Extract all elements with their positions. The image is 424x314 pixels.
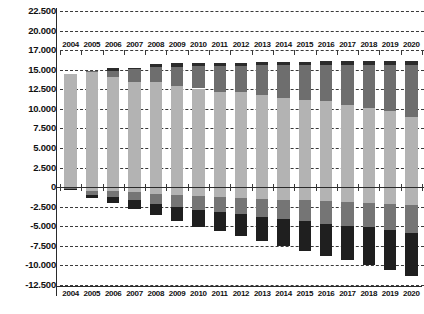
bar-segment[interactable] <box>214 66 226 92</box>
bar-segment[interactable] <box>235 92 247 187</box>
bar-segment[interactable] <box>405 117 417 187</box>
bar-segment[interactable] <box>277 200 289 219</box>
bar-segment[interactable] <box>320 65 332 101</box>
y-axis-tick-label: 12.500 <box>4 84 56 94</box>
bar-segment[interactable] <box>341 105 353 187</box>
bar-segment[interactable] <box>384 61 396 65</box>
bar-segment[interactable] <box>192 196 204 210</box>
bar-segment[interactable] <box>192 66 204 88</box>
x-axis-tick-mark <box>422 50 423 55</box>
bar-segment[interactable] <box>405 61 417 65</box>
bar-segment[interactable] <box>86 195 98 199</box>
bar-segment[interactable] <box>299 200 311 221</box>
bar-segment[interactable] <box>363 203 375 228</box>
x-axis-tick-label: 2009 <box>166 39 187 51</box>
x-axis-tick-mark <box>294 50 295 55</box>
bar-segment[interactable] <box>384 204 396 231</box>
x-axis-tick-label: 2008 <box>145 39 166 51</box>
bar-segment[interactable] <box>277 98 289 188</box>
x-axis-tick-label: 2006 <box>103 39 124 51</box>
bar-segment[interactable] <box>235 63 247 66</box>
bar-segment[interactable] <box>341 202 353 225</box>
bar-segment[interactable] <box>214 197 226 212</box>
bar-segment[interactable] <box>192 89 204 188</box>
bar-segment[interactable] <box>128 192 140 200</box>
zero-line-ticks <box>60 184 424 191</box>
bar-segment[interactable] <box>363 65 375 108</box>
bar-segment[interactable] <box>171 86 183 187</box>
bar-segment[interactable] <box>256 95 268 187</box>
bar-segment[interactable] <box>235 198 247 214</box>
bar-segment[interactable] <box>171 195 183 207</box>
x-axis-tick-label: 2007 <box>124 288 145 300</box>
bar-segment[interactable] <box>320 101 332 187</box>
bar-segment[interactable] <box>128 68 140 70</box>
bar-segment[interactable] <box>150 204 162 215</box>
bar-segment[interactable] <box>299 100 311 187</box>
x-axis-tick-label: 2019 <box>379 288 400 300</box>
x-axis-tick-mark <box>337 184 338 191</box>
bar-segment[interactable] <box>192 63 204 66</box>
bar-segment[interactable] <box>150 194 162 204</box>
bar-segment[interactable] <box>150 64 162 67</box>
bar-segment[interactable] <box>107 68 119 71</box>
bar-segment[interactable] <box>341 65 353 105</box>
bar-segment[interactable] <box>384 230 396 270</box>
bar-segment[interactable] <box>363 61 375 65</box>
bar-segment[interactable] <box>299 62 311 66</box>
bar-segment[interactable] <box>405 233 417 276</box>
bar-segment[interactable] <box>128 82 140 187</box>
bar-segment[interactable] <box>299 221 311 251</box>
bar-segment[interactable] <box>299 65 311 99</box>
bar-segment[interactable] <box>363 108 375 187</box>
bar-segment[interactable] <box>405 205 417 233</box>
x-axis-tick-mark <box>358 184 359 191</box>
bar-segment[interactable] <box>192 210 204 227</box>
x-axis-tick-label: 2016 <box>316 39 337 51</box>
bar-segment[interactable] <box>320 201 332 223</box>
x-axis-tick-label: 2004 <box>60 39 81 51</box>
x-axis-tick-mark <box>103 50 104 55</box>
bar-segment[interactable] <box>150 67 162 82</box>
bar-segment[interactable] <box>256 199 268 217</box>
bar-segment[interactable] <box>405 65 417 117</box>
bar-segment[interactable] <box>150 82 162 187</box>
x-axis-tick-mark <box>252 184 253 191</box>
bar-segment[interactable] <box>235 66 247 92</box>
x-axis-tick-label: 2008 <box>145 288 166 300</box>
bar-segment[interactable] <box>384 111 396 187</box>
bar-segment[interactable] <box>171 67 183 87</box>
bar-segment[interactable] <box>86 72 98 187</box>
bar-segment[interactable] <box>277 65 289 97</box>
bar-segment[interactable] <box>256 217 268 241</box>
bar-segment[interactable] <box>320 61 332 65</box>
bar-segment[interactable] <box>320 224 332 256</box>
bar-segment[interactable] <box>64 74 76 187</box>
bar-segment[interactable] <box>107 197 119 203</box>
x-axis-tick-mark <box>358 50 359 55</box>
bar-segment[interactable] <box>341 226 353 261</box>
bar-segment[interactable] <box>341 61 353 65</box>
bar-segment[interactable] <box>107 71 119 77</box>
bar-segment[interactable] <box>277 62 289 66</box>
x-axis-tick-mark <box>401 184 402 191</box>
bar-segment[interactable] <box>128 200 140 208</box>
bar-segment[interactable] <box>86 71 98 73</box>
bar-segment[interactable] <box>214 63 226 66</box>
bar-segment[interactable] <box>128 69 140 82</box>
x-axis-tick-label: 2017 <box>337 39 358 51</box>
bar-segment[interactable] <box>256 65 268 95</box>
bar-segment[interactable] <box>171 207 183 221</box>
bar-segment[interactable] <box>235 214 247 236</box>
bar-segment[interactable] <box>171 63 183 66</box>
y-axis-labels: 22.50020.00017.00015.00012.50010.0007.50… <box>0 0 56 314</box>
bar-segment[interactable] <box>363 227 375 265</box>
bar-segment[interactable] <box>214 92 226 187</box>
x-axis-tick-mark <box>60 184 61 191</box>
bar-segment[interactable] <box>256 62 268 65</box>
bar-segment[interactable] <box>384 65 396 111</box>
x-axis-tick-label: 2013 <box>252 39 273 51</box>
bar-segment[interactable] <box>277 219 289 246</box>
bar-segment[interactable] <box>214 212 226 231</box>
bar-segment[interactable] <box>107 77 119 187</box>
